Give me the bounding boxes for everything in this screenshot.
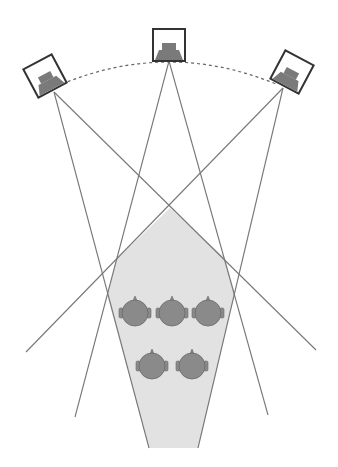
- sweet-spot-polygon: [107, 208, 235, 448]
- head: [179, 353, 205, 379]
- center-speaker: [153, 29, 185, 61]
- head: [139, 353, 165, 379]
- head: [122, 300, 148, 326]
- speaker-arc: [62, 62, 276, 84]
- speaker-cone-icon: [155, 50, 183, 60]
- head: [195, 300, 221, 326]
- right-speaker: [270, 50, 313, 93]
- head: [159, 300, 185, 326]
- left-speaker: [23, 54, 66, 97]
- speaker-placement-diagram: [0, 0, 338, 467]
- speaker-magnet: [162, 43, 176, 50]
- sweet-spot-area: [107, 208, 235, 448]
